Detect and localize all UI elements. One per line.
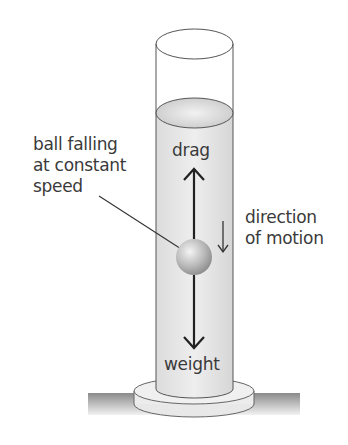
cylinder-rim xyxy=(156,29,233,59)
ball-label: ball falling at constant speed xyxy=(33,134,126,197)
weight-label: weight xyxy=(164,354,220,375)
direction-label: direction of motion xyxy=(245,207,324,249)
direction-label-line-2: of motion xyxy=(245,228,324,249)
ball-label-line-2: at constant xyxy=(33,155,126,176)
ball-label-line-3: speed xyxy=(33,176,126,197)
drag-label: drag xyxy=(172,140,210,161)
liquid-surface xyxy=(156,98,233,128)
direction-label-line-1: direction xyxy=(245,207,324,228)
ball-label-line-1: ball falling xyxy=(33,134,126,155)
ball xyxy=(176,239,212,275)
